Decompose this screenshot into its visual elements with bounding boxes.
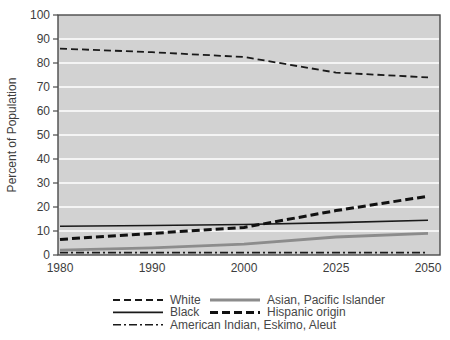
population-line-chart: 0102030405060708090100198019902000202520… <box>0 0 450 340</box>
y-tick-label: 40 <box>37 152 51 166</box>
y-tick-label: 90 <box>37 32 51 46</box>
x-tick-label: 2025 <box>323 261 350 275</box>
x-tick-label: 1990 <box>139 261 166 275</box>
y-tick-label: 80 <box>37 56 51 70</box>
y-tick-label: 100 <box>30 8 50 22</box>
x-tick-label: 2000 <box>231 261 258 275</box>
legend-label-american-indian-eskimo-aleut: American Indian, Eskimo, Aleut <box>170 318 337 332</box>
x-tick-label: 2050 <box>415 261 442 275</box>
x-tick-label: 1980 <box>47 261 74 275</box>
y-axis-title: Percent of Population <box>5 78 19 193</box>
y-tick-label: 50 <box>37 128 51 142</box>
y-tick-label: 0 <box>43 248 50 262</box>
y-tick-label: 60 <box>37 104 51 118</box>
chart-legend: White Asian, Pacific Islander Black Hisp… <box>113 293 385 332</box>
population-projection-figure: 0102030405060708090100198019902000202520… <box>0 0 450 340</box>
y-tick-label: 30 <box>37 176 51 190</box>
y-tick-label: 20 <box>37 200 51 214</box>
y-tick-label: 70 <box>37 80 51 94</box>
y-tick-label: 10 <box>37 224 51 238</box>
